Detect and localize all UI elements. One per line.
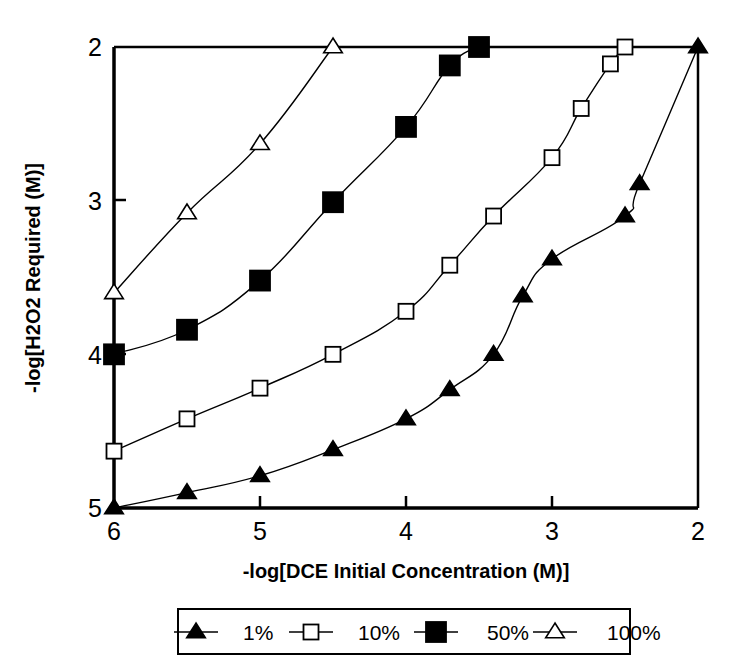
- legend-marker: [187, 623, 206, 638]
- legend-marker: [546, 623, 565, 638]
- x-axis-ticks: [260, 496, 552, 508]
- data-point-marker: [574, 101, 589, 116]
- data-point-marker: [689, 38, 708, 53]
- legend: 1%10%50%100%: [174, 609, 661, 654]
- chart-svg: 2 3 4 5 6 5 4 3 2 -log[DCE Initial Conce…: [0, 0, 737, 669]
- data-point-marker: [323, 192, 343, 212]
- y-axis-ticks: [114, 200, 126, 354]
- data-point-marker: [442, 258, 457, 273]
- data-point-marker: [324, 441, 343, 456]
- data-point-marker: [514, 287, 533, 302]
- data-point-marker: [253, 381, 268, 396]
- data-point-marker: [107, 444, 122, 459]
- data-point-marker: [616, 207, 635, 222]
- y-tick-label-2: 4: [88, 341, 102, 369]
- legend-label: 100%: [607, 621, 661, 644]
- legend-item-100pct[interactable]: 100%: [533, 621, 661, 644]
- series-line: [114, 47, 479, 354]
- legend-label: 1%: [243, 621, 273, 644]
- x-tick-label-0: 6: [107, 517, 121, 545]
- y-tick-label-0: 2: [88, 33, 102, 61]
- y-tick-labels: 2 3 4 5: [88, 33, 102, 522]
- series-line: [114, 47, 625, 451]
- data-point-marker: [603, 56, 618, 71]
- x-tick-label-3: 3: [545, 517, 559, 545]
- data-point-marker: [250, 271, 270, 291]
- data-series-layer: [104, 37, 707, 514]
- data-point-marker: [396, 117, 416, 137]
- data-point-marker: [543, 250, 562, 265]
- legend-marker: [426, 622, 446, 642]
- y-tick-label-3: 5: [88, 494, 102, 522]
- data-point-marker: [441, 381, 460, 396]
- data-point-marker: [630, 175, 649, 190]
- series-100pct: [105, 38, 343, 299]
- legend-label: 10%: [358, 621, 400, 644]
- series-1pct: [105, 38, 708, 514]
- x-tick-labels: 6 5 4 3 2: [107, 517, 705, 545]
- data-point-marker: [397, 410, 416, 425]
- figure-container: 2 3 4 5 6 5 4 3 2 -log[DCE Initial Conce…: [0, 0, 737, 669]
- y-tick-label-1: 3: [88, 187, 102, 215]
- legend-item-10pct[interactable]: 10%: [289, 621, 400, 644]
- legend-item-50pct[interactable]: 50%: [414, 621, 529, 644]
- data-point-marker: [180, 411, 195, 426]
- data-point-marker: [469, 37, 489, 57]
- data-point-marker: [484, 345, 503, 360]
- data-point-marker: [618, 40, 633, 55]
- x-tick-label-1: 5: [253, 517, 267, 545]
- data-point-marker: [326, 347, 341, 362]
- data-point-marker: [324, 38, 343, 53]
- series-line: [114, 47, 333, 293]
- data-point-marker: [399, 304, 414, 319]
- x-tick-label-4: 2: [691, 517, 705, 545]
- series-10pct: [107, 40, 633, 459]
- y-axis-title: -log[H2O2 Required (M)]: [22, 163, 44, 393]
- x-tick-label-2: 4: [399, 517, 413, 545]
- data-point-marker: [486, 209, 501, 224]
- series-50pct: [104, 37, 489, 364]
- data-point-marker: [440, 55, 460, 75]
- legend-item-1pct[interactable]: 1%: [174, 621, 273, 644]
- data-point-marker: [545, 150, 560, 165]
- data-point-marker: [177, 320, 197, 340]
- x-axis-title: -log[DCE Initial Concentration (M)]: [243, 560, 570, 582]
- data-point-marker: [104, 344, 124, 364]
- legend-items-layer: 1%10%50%100%: [174, 621, 661, 644]
- legend-label: 50%: [487, 621, 529, 644]
- legend-marker: [304, 625, 319, 640]
